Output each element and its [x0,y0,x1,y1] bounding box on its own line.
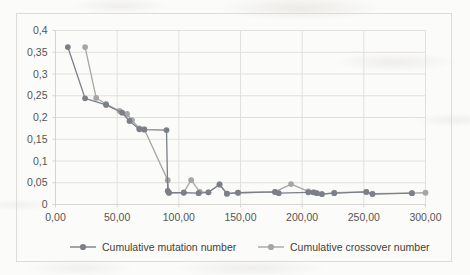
data-point [217,182,223,188]
y-tick-label: 0,25 [27,89,48,101]
chart-container: 00,050,10,150,20,250,30,350,40,0050,0010… [0,0,470,275]
data-point [288,181,294,187]
y-tick-label: 0,2 [33,111,48,123]
chart-legend: Cumulative mutation numberCumulative cro… [70,241,430,253]
data-point [188,177,194,183]
x-tick-label: 300,00 [409,211,441,223]
data-point [82,44,88,50]
x-tick-label: 0,00 [45,211,66,223]
data-point [181,190,187,196]
data-point [82,95,88,101]
y-tick-label: 0,4 [33,24,48,36]
data-point [65,44,71,50]
data-point [363,189,369,195]
line-chart: 00,050,10,150,20,250,30,350,40,0050,0010… [0,0,470,275]
data-point [423,190,429,196]
y-tick-label: 0 [42,198,48,210]
data-point [224,191,230,197]
data-point [206,189,212,195]
data-point [235,190,241,196]
data-point [319,191,325,197]
data-point [409,190,415,196]
y-tick-label: 0,05 [27,176,48,188]
data-point [314,190,320,196]
data-point [305,189,311,195]
legend-label: Cumulative mutation number [102,241,237,253]
data-point [276,190,282,196]
series-crossover [82,44,428,197]
data-point [119,110,125,116]
y-tick-label: 0,15 [27,133,48,145]
data-point [164,127,170,133]
data-point [166,190,172,196]
data-point [103,102,109,108]
legend-marker-dot [80,244,86,250]
data-point [370,191,376,197]
x-tick-label: 100,00 [163,211,195,223]
x-tick-label: 50,00 [104,211,130,223]
legend-label: Cumulative crossover number [290,241,430,253]
data-point [331,190,337,196]
data-point [127,118,133,124]
legend-marker-dot [268,244,274,250]
data-point [196,190,202,196]
y-tick-label: 0,3 [33,68,48,80]
x-tick-label: 250,00 [348,211,380,223]
series-line [85,47,425,194]
series-line [68,47,412,194]
data-point [141,127,147,133]
data-point [93,95,99,101]
x-tick-label: 200,00 [286,211,318,223]
x-tick-label: 150,00 [224,211,256,223]
data-point [136,126,142,132]
y-tick-label: 0,35 [27,46,48,58]
y-tick-label: 0,1 [33,155,48,167]
